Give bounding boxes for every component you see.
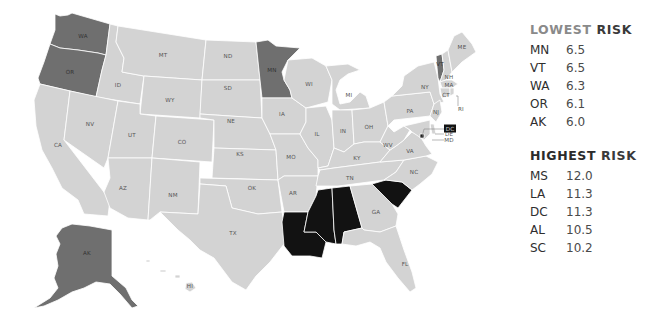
state-label-ny: NY bbox=[421, 84, 429, 90]
ri-callout-line bbox=[456, 96, 458, 106]
state-label-ok: OK bbox=[248, 185, 257, 191]
state-label-or: OR bbox=[66, 69, 75, 75]
state-label-in: IN bbox=[340, 128, 346, 134]
state-label-wi: WI bbox=[305, 81, 313, 87]
state-label-nv: NV bbox=[86, 121, 94, 127]
state-me[interactable] bbox=[448, 32, 476, 72]
highest-risk-title: HIGHEST RISK bbox=[530, 148, 650, 163]
legend-row: DC11.3 bbox=[530, 203, 650, 221]
legend-state: MN bbox=[530, 41, 566, 59]
state-label-vt: VT bbox=[436, 61, 444, 67]
legend-state: AK bbox=[530, 113, 566, 131]
state-fl[interactable] bbox=[342, 226, 416, 292]
legend: LOWEST RISK MN6.5 VT6.5 WA6.3 OR6.1 AK6.… bbox=[530, 22, 650, 257]
legend-row: LA11.3 bbox=[530, 185, 650, 203]
legend-value: 6.1 bbox=[566, 95, 585, 113]
state-label-ca: CA bbox=[54, 142, 62, 148]
legend-value: 11.3 bbox=[566, 203, 593, 221]
lowest-risk-title-second: RISK bbox=[597, 22, 632, 37]
state-label-id: ID bbox=[115, 82, 121, 88]
state-label-tx: TX bbox=[228, 230, 237, 236]
legend-spacer bbox=[530, 131, 650, 148]
state-label-co: CO bbox=[178, 139, 187, 145]
state-label-ne: NE bbox=[227, 118, 235, 124]
legend-state: SC bbox=[530, 239, 566, 257]
state-label-ky: KY bbox=[353, 155, 361, 161]
legend-value: 10.2 bbox=[566, 239, 593, 257]
state-label-nj: NJ bbox=[433, 109, 439, 116]
legend-row: AL10.5 bbox=[530, 221, 650, 239]
state-label-wa: WA bbox=[78, 33, 87, 39]
state-label-il: IL bbox=[314, 131, 320, 137]
state-label-ak: AK bbox=[83, 250, 91, 256]
state-label-ma: MA bbox=[444, 82, 453, 88]
legend-value: 6.0 bbox=[566, 113, 585, 131]
legend-row: VT6.5 bbox=[530, 59, 650, 77]
state-ks[interactable] bbox=[212, 148, 278, 180]
state-label-mt: MT bbox=[159, 52, 168, 58]
state-label-ks: KS bbox=[236, 151, 244, 157]
state-label-nm: NM bbox=[168, 192, 177, 198]
state-label-sd: SD bbox=[224, 85, 232, 91]
state-label-nc: NC bbox=[410, 169, 419, 175]
legend-state: OR bbox=[530, 95, 566, 113]
legend-row: MS12.0 bbox=[530, 167, 650, 185]
state-label-mn: MN bbox=[267, 67, 276, 73]
highest-risk-title-second: RISK bbox=[601, 148, 636, 163]
highest-risk-title-first: HIGHEST bbox=[530, 148, 596, 163]
state-label-hi: HI bbox=[187, 283, 193, 289]
legend-value: 12.0 bbox=[566, 167, 593, 185]
legend-state: AL bbox=[530, 221, 566, 239]
state-label-ut: UT bbox=[128, 132, 136, 138]
legend-row: SC10.2 bbox=[530, 239, 650, 257]
state-nm[interactable] bbox=[148, 158, 200, 220]
legend-value: 6.3 bbox=[566, 77, 585, 95]
legend-state: MS bbox=[530, 167, 566, 185]
state-label-wy: WY bbox=[165, 97, 175, 103]
legend-state: VT bbox=[530, 59, 566, 77]
legend-state: LA bbox=[530, 185, 566, 203]
state-label-tn: TN bbox=[345, 175, 354, 181]
legend-state: DC bbox=[530, 203, 566, 221]
state-az[interactable] bbox=[104, 158, 152, 220]
legend-value: 11.3 bbox=[566, 185, 593, 203]
state-label-md: MD bbox=[444, 137, 454, 143]
state-label-pa: PA bbox=[406, 108, 413, 114]
state-label-nh: NH bbox=[445, 74, 454, 80]
legend-row: WA6.3 bbox=[530, 77, 650, 95]
state-label-fl: FL bbox=[402, 261, 409, 267]
lowest-risk-title: LOWEST RISK bbox=[530, 22, 650, 37]
legend-value: 6.5 bbox=[566, 41, 585, 59]
state-label-wv: WV bbox=[383, 142, 393, 148]
legend-row: AK6.0 bbox=[530, 113, 650, 131]
lowest-risk-title-first: LOWEST bbox=[530, 22, 592, 37]
state-label-va: VA bbox=[406, 148, 414, 154]
us-risk-map: WAORCAIDNVMTWYUTAZCONMNDSDNEKSOKTXMNIAMO… bbox=[0, 0, 490, 315]
state-label-ct: CT bbox=[442, 92, 450, 98]
legend-value: 10.5 bbox=[566, 221, 593, 239]
state-mi[interactable] bbox=[326, 64, 370, 110]
state-label-nd: ND bbox=[224, 53, 233, 59]
legend-row: OR6.1 bbox=[530, 95, 650, 113]
state-label-dc: DC bbox=[446, 126, 455, 132]
legend-value: 6.5 bbox=[566, 59, 585, 77]
state-label-mo: MO bbox=[286, 154, 296, 160]
state-ri[interactable] bbox=[450, 88, 454, 96]
state-label-ar: AR bbox=[289, 190, 297, 196]
state-label-az: AZ bbox=[119, 185, 127, 191]
state-label-ia: IA bbox=[279, 111, 285, 117]
state-label-ga: GA bbox=[372, 209, 381, 215]
state-nd[interactable] bbox=[202, 40, 260, 80]
legend-row: MN6.5 bbox=[530, 41, 650, 59]
legend-state: WA bbox=[530, 77, 566, 95]
state-label-oh: OH bbox=[364, 124, 373, 130]
state-label-ri: RI bbox=[458, 106, 464, 112]
state-label-me: ME bbox=[458, 44, 467, 50]
state-ak[interactable] bbox=[34, 224, 138, 308]
state-label-mi: MI bbox=[346, 92, 353, 98]
